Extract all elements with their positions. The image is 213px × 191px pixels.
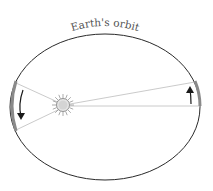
orbit-ellipse [10,34,200,180]
right-arc-highlight [195,81,200,106]
orbit-label: Earth's orbit [69,16,141,33]
left-sector-upper-line [16,83,62,104]
sun-icon [52,94,74,116]
left-sector-lower-line [16,108,62,130]
left-arrowhead-icon [17,113,25,120]
right-arrowhead-icon [186,86,194,93]
left-motion-arrow [20,90,23,117]
kepler-second-law-diagram: Earth's orbit [0,0,213,191]
left-arc-highlight [12,81,16,131]
right-sector-upper-line [70,82,195,104]
